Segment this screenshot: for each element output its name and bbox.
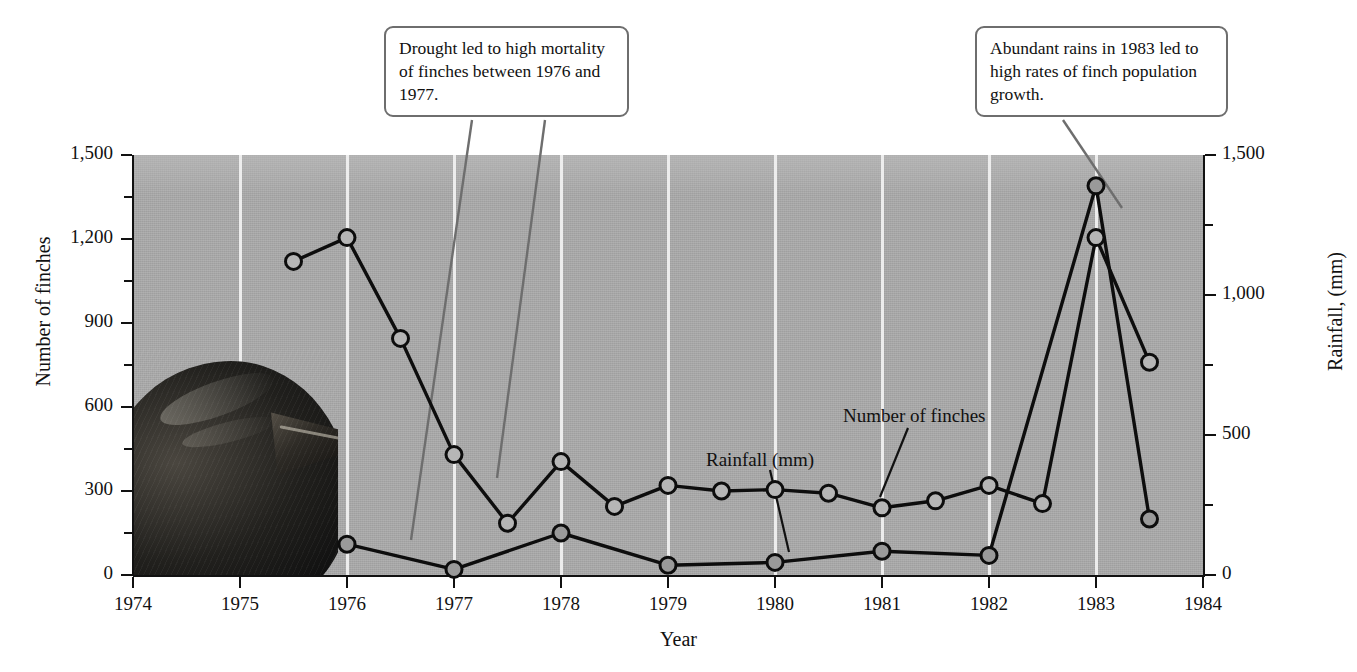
data-point-rainfall-4 xyxy=(767,554,783,570)
callout-rains: Abundant rains in 1983 led to high rates… xyxy=(975,26,1228,117)
callout-leader-lines xyxy=(411,120,1122,540)
series-line-rainfall-mm xyxy=(347,186,1150,570)
leader-line-drought-1977 xyxy=(497,120,545,478)
series-markers xyxy=(286,178,1158,578)
data-point-rainfall-6 xyxy=(981,547,997,563)
data-point-rainfall-5 xyxy=(874,543,890,559)
data-point-rainfall-0 xyxy=(339,536,355,552)
data-point-finches-3 xyxy=(446,447,462,463)
data-point-finches-6 xyxy=(607,498,623,514)
bottom-caption-fragment xyxy=(0,662,1357,672)
leader-line-drought-1976 xyxy=(411,120,472,540)
series-paths xyxy=(294,186,1150,570)
data-point-finches-7 xyxy=(660,477,676,493)
data-point-rainfall-1 xyxy=(446,561,462,577)
data-point-finches-5 xyxy=(553,454,569,470)
data-point-finches-14 xyxy=(1035,496,1051,512)
data-point-rainfall-2 xyxy=(553,525,569,541)
data-point-rainfall-3 xyxy=(660,557,676,573)
data-point-finches-2 xyxy=(393,330,409,346)
data-point-finches-4 xyxy=(500,515,516,531)
data-point-finches-11 xyxy=(874,500,890,516)
series-label-rainfall: Rainfall (mm) xyxy=(706,449,814,471)
series-line-number-of-finches xyxy=(294,238,1150,524)
callout-drought: Drought led to high mortality of finches… xyxy=(384,26,629,117)
data-point-finches-15 xyxy=(1088,230,1104,246)
data-point-finches-10 xyxy=(821,485,837,501)
data-point-rainfall-7 xyxy=(1088,178,1104,194)
data-point-finches-0 xyxy=(286,253,302,269)
data-point-finches-8 xyxy=(714,483,730,499)
leader-line-finches-label xyxy=(880,428,908,497)
data-point-finches-12 xyxy=(928,493,944,509)
data-point-finches-13 xyxy=(981,477,997,493)
series-label-finches: Number of finches xyxy=(843,405,985,427)
data-point-finches-9 xyxy=(767,482,783,498)
data-point-finches-16 xyxy=(1142,354,1158,370)
data-point-rainfall-8 xyxy=(1142,511,1158,527)
data-point-finches-1 xyxy=(339,230,355,246)
